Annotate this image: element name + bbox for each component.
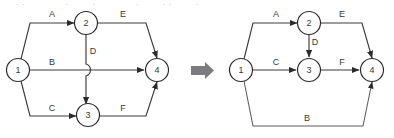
node-2-after-label: 2 <box>306 18 311 28</box>
edge-E-before <box>98 23 157 58</box>
edge-A-after-label: A <box>273 9 279 19</box>
node-1-before[interactable]: 1 <box>7 59 30 82</box>
node-4-before-label: 4 <box>154 65 159 75</box>
node-1-before-label: 1 <box>15 65 20 75</box>
edge-A-before <box>21 23 74 59</box>
node-3-before[interactable]: 3 <box>77 104 100 127</box>
edge-E-after <box>321 23 372 58</box>
node-2-before[interactable]: 2 <box>75 12 98 35</box>
diagram-after: 1 2 3 4 A C D E F B <box>230 9 384 126</box>
edge-C-after-label: C <box>273 57 280 67</box>
node-3-after[interactable]: 3 <box>298 59 321 82</box>
node-1-after-label: 1 <box>238 65 243 75</box>
edge-F-after-label: F <box>339 57 345 67</box>
node-2-after[interactable]: 2 <box>298 12 321 35</box>
node-3-before-label: 3 <box>85 110 90 120</box>
diagram-before: 1 2 3 4 A B C D E F <box>7 9 169 127</box>
edge-F-before <box>100 82 157 116</box>
edge-D-before-label: D <box>90 46 97 56</box>
edge-E-before-label: E <box>120 9 126 19</box>
transform-arrow <box>191 62 214 79</box>
node-4-before[interactable]: 4 <box>146 59 169 82</box>
edge-A-before-label: A <box>49 9 55 19</box>
edge-D-after-label: D <box>312 37 319 47</box>
node-4-after[interactable]: 4 <box>361 59 384 82</box>
edge-B-after-label: B <box>304 113 310 123</box>
edge-B-before-label: B <box>49 57 55 67</box>
edge-C-before-label: C <box>49 103 56 113</box>
cropped-top-text: — ·· — — · — · — — · — ·· — · — <box>0 0 394 5</box>
diagram-canvas: — ·· — — · — · — — · — ·· — · — <box>0 0 394 138</box>
edge-E-after-label: E <box>339 9 345 19</box>
edge-F-before-label: F <box>120 103 126 113</box>
node-2-before-label: 2 <box>83 18 88 28</box>
node-1-after[interactable]: 1 <box>230 59 253 82</box>
network-diagram-pair: 1 2 3 4 A B C D E F <box>0 0 394 138</box>
edge-A-after <box>244 23 297 59</box>
node-3-after-label: 3 <box>306 65 311 75</box>
node-4-after-label: 4 <box>369 65 374 75</box>
